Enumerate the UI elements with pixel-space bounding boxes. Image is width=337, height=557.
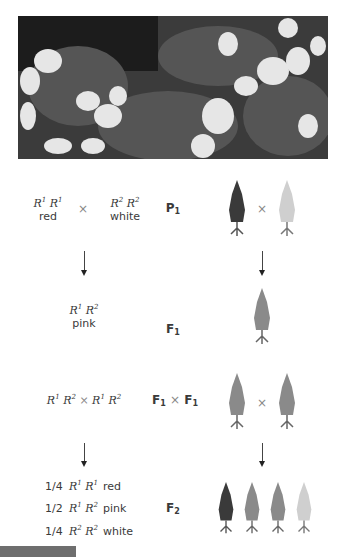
cross-symbol: ×: [255, 397, 269, 410]
p1-right-genotype: R2 R2: [105, 197, 145, 210]
p1-left-phenotype: red: [28, 210, 68, 223]
generation-label-p1: P1: [163, 202, 183, 215]
plant-pink-icon: [241, 481, 263, 540]
f1-genotype: R1 R2: [64, 304, 104, 317]
arrow-down-icon: [262, 443, 263, 462]
plant-white-icon: [275, 180, 299, 242]
snapdragon-photo: [18, 16, 328, 159]
generation-label-f1: F1: [163, 323, 183, 336]
caption-label-bar: [0, 546, 76, 557]
p1-left-genotype: R1 R1: [28, 197, 68, 210]
cross-symbol: ×: [76, 203, 90, 216]
plant-pink-icon: [267, 481, 289, 540]
arrow-down-icon: [84, 443, 85, 462]
arrow-down-icon: [84, 251, 85, 271]
f1-cross-genotypes: R1 R2 × R1 R2: [44, 394, 124, 407]
plant-red-icon: [225, 180, 249, 242]
generation-label-f2: F2: [163, 502, 183, 515]
f2-ratio-red: 1/4R1 R1red: [45, 480, 121, 493]
caption-text-cutoff: [86, 552, 336, 557]
arrow-down-icon: [262, 251, 263, 271]
plant-pink-icon: [225, 373, 249, 435]
f1-phenotype: pink: [64, 317, 104, 330]
generation-label-f1xf1: F1 × F1: [152, 394, 196, 407]
f2-ratio-white: 1/4R2 R2white: [45, 525, 133, 538]
plant-red-icon: [215, 481, 237, 540]
plant-pink-icon: [250, 288, 274, 350]
p1-right-phenotype: white: [105, 210, 145, 223]
plant-pink-icon: [275, 373, 299, 435]
plant-white-icon: [293, 481, 315, 540]
f2-ratio-pink: 1/2R1 R2pink: [45, 502, 126, 515]
cross-symbol: ×: [255, 203, 269, 216]
